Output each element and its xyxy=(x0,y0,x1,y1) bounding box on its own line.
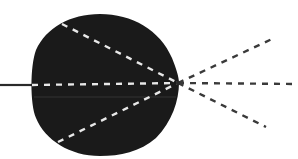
focal-point xyxy=(176,81,180,85)
lens-ray-diagram xyxy=(0,0,298,159)
